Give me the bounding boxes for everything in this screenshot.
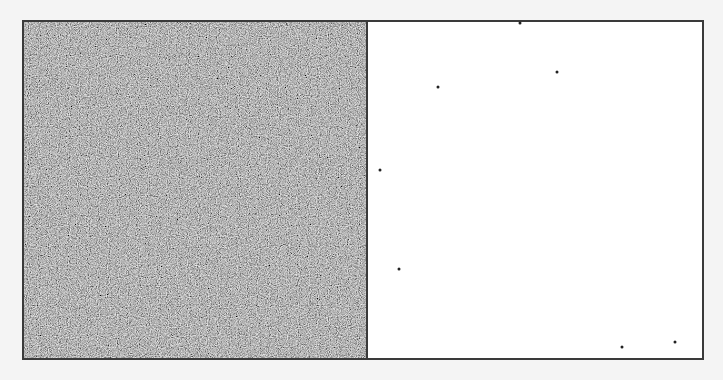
dot-marker xyxy=(556,71,559,74)
noise-panel xyxy=(24,22,368,358)
dot-marker xyxy=(437,86,440,89)
dot-marker xyxy=(621,346,624,349)
figure-frame xyxy=(22,20,704,360)
dot-marker xyxy=(379,169,382,172)
dot-marker xyxy=(674,341,677,344)
dot-marker xyxy=(519,22,522,25)
dot-marker xyxy=(398,268,401,271)
noise-texture xyxy=(24,22,366,358)
dots-panel xyxy=(368,22,702,358)
